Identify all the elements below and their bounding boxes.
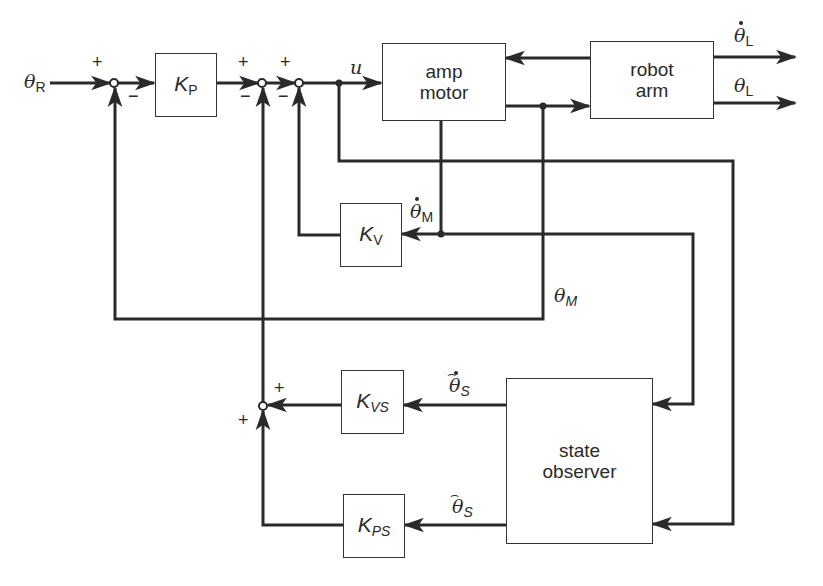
signal-theta-m-dot: θM bbox=[410, 200, 433, 223]
signal-theta-l: θL bbox=[734, 74, 753, 97]
robot-arm-label: robot arm bbox=[630, 59, 673, 101]
signal-theta-l-dot: θL bbox=[734, 24, 753, 47]
amp-motor-label: amp motor bbox=[420, 61, 469, 103]
block-robot-arm: robot arm bbox=[590, 41, 714, 119]
wire-thetaM-to-sum1 bbox=[115, 88, 543, 319]
block-kp: KP bbox=[155, 53, 217, 117]
sum4-left-plus-sign: + bbox=[238, 410, 249, 431]
sum3-plus-sign: + bbox=[280, 52, 291, 73]
summing-junction-1 bbox=[110, 79, 118, 87]
branch-dot-u bbox=[336, 80, 343, 87]
sum2-minus-sign: − bbox=[240, 86, 251, 107]
wire-kv-to-sum3 bbox=[299, 88, 340, 235]
signal-theta-s-hat: ⌢θS bbox=[452, 495, 473, 518]
wire-thetaM-dot-to-observer bbox=[441, 120, 693, 404]
sum1-plus-sign: + bbox=[92, 52, 103, 73]
block-amp-motor: amp motor bbox=[382, 43, 506, 121]
kps-label: KPS bbox=[358, 513, 391, 539]
summing-junction-4 bbox=[259, 402, 267, 410]
branch-dot-thetaM bbox=[540, 103, 547, 110]
sum1-minus-sign: − bbox=[128, 86, 139, 107]
block-state-observer: state observer bbox=[506, 378, 653, 544]
kp-label: KP bbox=[174, 72, 197, 98]
sum3-minus-sign: − bbox=[278, 86, 289, 107]
kvs-label: KVS bbox=[356, 389, 389, 415]
kv-label: KV bbox=[359, 222, 382, 248]
signal-u: u bbox=[350, 56, 362, 79]
block-kv: KV bbox=[340, 203, 402, 267]
branch-dot-thetaM-dot bbox=[438, 231, 445, 238]
block-kps: KPS bbox=[343, 494, 405, 558]
sum2-plus-sign: + bbox=[238, 52, 249, 73]
summing-junction-3 bbox=[295, 79, 303, 87]
signal-theta-s-hat-dot: ⌢θS bbox=[449, 374, 470, 397]
block-kvs: KVS bbox=[341, 370, 404, 434]
signal-theta-r: θR bbox=[24, 70, 46, 93]
sum4-top-plus-sign: + bbox=[274, 378, 285, 399]
state-observer-label: state observer bbox=[543, 440, 617, 482]
signal-theta-m: θM bbox=[554, 284, 577, 307]
summing-junction-2 bbox=[258, 79, 266, 87]
wire-kps-to-sum4 bbox=[263, 411, 343, 525]
